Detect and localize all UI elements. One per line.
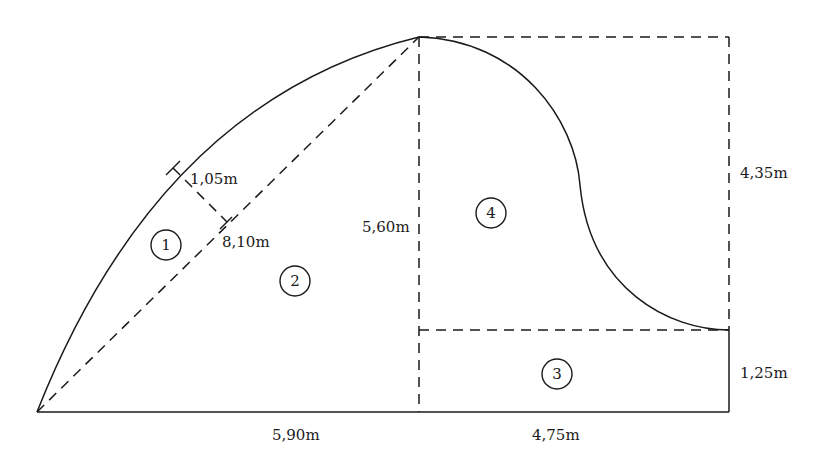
svg-text:4: 4	[486, 204, 496, 222]
rect-width-label: 4,75m	[532, 426, 580, 444]
region-4-marker: 4	[476, 198, 506, 228]
upper-height-label: 4,35m	[740, 164, 788, 182]
triangle-base-label: 5,90m	[272, 426, 320, 444]
svg-text:2: 2	[290, 272, 300, 290]
region-3-marker: 3	[542, 359, 572, 389]
segment-height-label: 1,05m	[190, 170, 238, 188]
area-diagram: 1,05m 8,10m 5,60m 5,90m 4,75m 4,35m 1,25…	[0, 0, 824, 466]
svg-text:3: 3	[552, 365, 562, 383]
triangle-height-label: 5,60m	[362, 218, 410, 236]
region-1-marker: 1	[151, 230, 181, 260]
region-2-marker: 2	[280, 266, 310, 296]
chord-label: 8,10m	[222, 233, 270, 251]
svg-text:1: 1	[161, 236, 171, 254]
lower-height-label: 1,25m	[740, 364, 788, 382]
s-curve	[419, 37, 729, 330]
